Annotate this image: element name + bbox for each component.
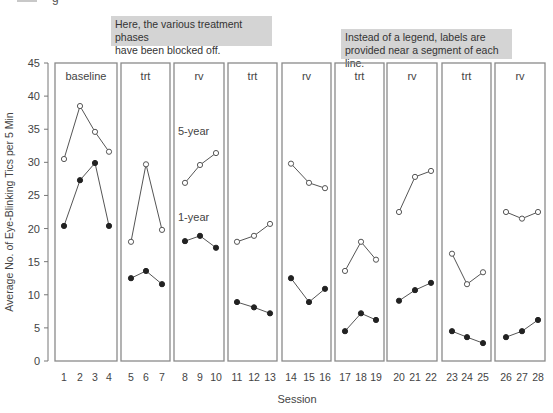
x-tick-label: 9 <box>197 371 203 383</box>
marker-1-year <box>358 311 363 316</box>
marker-5-year <box>322 186 327 191</box>
phase-label: baseline <box>66 70 107 82</box>
x-tick-label: 24 <box>461 371 473 383</box>
phase-panel <box>442 63 491 361</box>
inline-label-5-year: 5-year <box>178 125 210 137</box>
phase-label: trt <box>141 70 151 82</box>
marker-5-year <box>159 227 164 232</box>
line-5-year <box>64 106 109 159</box>
y-axis-title: Average No. of Eye-Blinking Tics per 5 M… <box>3 112 15 312</box>
marker-1-year <box>373 317 378 322</box>
marker-5-year <box>358 239 363 244</box>
x-tick-label: 21 <box>409 371 421 383</box>
x-tick-label: 28 <box>532 371 544 383</box>
marker-1-year <box>159 282 164 287</box>
marker-5-year <box>128 239 133 244</box>
line-5-year <box>345 242 376 271</box>
y-tick-label: 30 <box>28 156 40 168</box>
marker-5-year <box>77 103 82 108</box>
phase-label: trt <box>462 70 472 82</box>
marker-5-year <box>143 162 148 167</box>
marker-1-year <box>503 335 508 340</box>
y-tick-label: 40 <box>28 90 40 102</box>
x-tick-label: 2 <box>77 371 83 383</box>
x-tick-label: 4 <box>106 371 112 383</box>
line-5-year <box>452 254 483 284</box>
marker-1-year <box>342 329 347 334</box>
line-1-year <box>291 278 325 302</box>
y-tick-label: 5 <box>34 322 40 334</box>
x-tick-label: 6 <box>143 371 149 383</box>
marker-1-year <box>412 288 417 293</box>
x-tick-label: 10 <box>210 371 222 383</box>
x-tick-label: 1 <box>61 371 67 383</box>
marker-1-year <box>213 245 218 250</box>
marker-1-year <box>197 233 202 238</box>
marker-5-year <box>449 251 454 256</box>
y-tick-label: 10 <box>28 289 40 301</box>
marker-5-year <box>480 270 485 275</box>
x-tick-label: 13 <box>264 371 276 383</box>
x-tick-label: 11 <box>232 371 243 383</box>
marker-1-year <box>428 280 433 285</box>
marker-5-year <box>106 149 111 154</box>
marker-1-year <box>77 178 82 183</box>
marker-1-year <box>92 160 97 165</box>
phase-label: rv <box>515 70 525 82</box>
marker-1-year <box>322 286 327 291</box>
x-tick-label: 18 <box>355 371 367 383</box>
y-tick-label: 35 <box>28 123 40 135</box>
x-tick-label: 15 <box>303 371 315 383</box>
marker-5-year <box>213 150 218 155</box>
marker-5-year <box>306 180 311 185</box>
y-tick-label: 25 <box>28 189 40 201</box>
marker-1-year <box>519 329 524 334</box>
marker-5-year <box>535 209 540 214</box>
phase-label: rv <box>194 70 204 82</box>
marker-5-year <box>288 161 293 166</box>
marker-1-year <box>464 335 469 340</box>
x-tick-label: 7 <box>159 371 165 383</box>
marker-1-year <box>234 299 239 304</box>
marker-1-year <box>449 329 454 334</box>
phase-label: trt <box>355 70 365 82</box>
x-tick-label: 23 <box>446 371 458 383</box>
x-tick-label: 26 <box>500 371 512 383</box>
marker-1-year <box>106 223 111 228</box>
x-tick-label: 12 <box>248 371 260 383</box>
marker-1-year <box>288 276 293 281</box>
marker-1-year <box>61 223 66 228</box>
marker-1-year <box>143 268 148 273</box>
line-5-year <box>131 164 162 241</box>
marker-1-year <box>396 298 401 303</box>
marker-5-year <box>428 168 433 173</box>
phase-panel <box>387 63 437 361</box>
x-axis-title: Session <box>277 393 316 405</box>
marker-5-year <box>61 156 66 161</box>
marker-5-year <box>373 257 378 262</box>
phase-label: trt <box>248 70 258 82</box>
marker-5-year <box>251 233 256 238</box>
marker-1-year <box>182 239 187 244</box>
line-1-year <box>64 163 109 226</box>
phase-panel <box>121 63 170 361</box>
x-tick-label: 19 <box>370 371 382 383</box>
marker-5-year <box>464 282 469 287</box>
y-tick-label: 15 <box>28 256 40 268</box>
x-tick-label: 22 <box>425 371 437 383</box>
phase-panel <box>55 63 117 361</box>
marker-5-year <box>412 174 417 179</box>
x-tick-label: 27 <box>516 371 528 383</box>
marker-1-year <box>306 299 311 304</box>
x-tick-label: 5 <box>128 371 134 383</box>
marker-1-year <box>128 276 133 281</box>
x-tick-label: 20 <box>393 371 405 383</box>
marker-5-year <box>503 209 508 214</box>
phase-label: rv <box>407 70 417 82</box>
y-tick-label: 20 <box>28 223 40 235</box>
marker-5-year <box>92 129 97 134</box>
phase-panel <box>335 63 384 361</box>
marker-5-year <box>396 209 401 214</box>
x-tick-label: 8 <box>182 371 188 383</box>
x-tick-label: 14 <box>285 371 297 383</box>
